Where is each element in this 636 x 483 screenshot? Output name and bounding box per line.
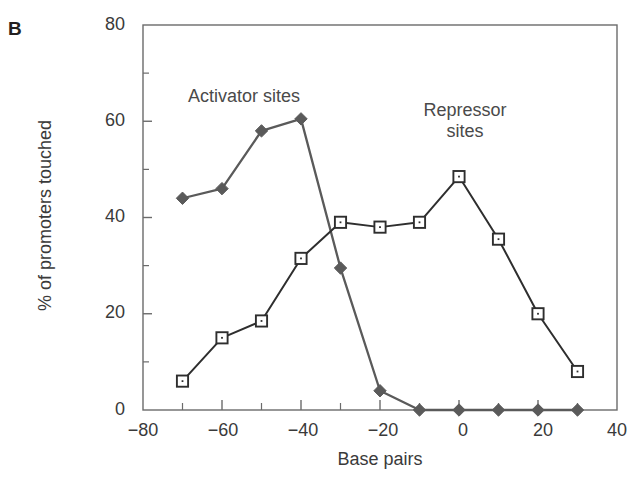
annotation-activator-sites: Activator sites <box>164 86 324 107</box>
x-axis-title: Base pairs <box>143 449 617 470</box>
x-tick-label-minus40: −40 <box>273 420 333 441</box>
annotation-repressor-sites: Repressor sites <box>405 100 525 142</box>
y-tick-label-20: 20 <box>75 302 125 323</box>
data-point-marker <box>453 404 465 416</box>
data-point-center-dot <box>340 221 342 223</box>
data-point-center-dot <box>577 371 579 373</box>
plot-frame <box>143 25 617 410</box>
series-line <box>183 177 578 382</box>
x-tick-label-minus60: −60 <box>193 420 253 441</box>
x-tick-marks <box>183 400 578 410</box>
x-tick-label-0: 0 <box>433 420 493 441</box>
x-tick-label-40: 40 <box>587 420 636 441</box>
data-point-marker <box>334 262 346 274</box>
data-point-center-dot <box>498 238 500 240</box>
series-activator-sites <box>176 113 583 417</box>
y-tick-marks <box>143 73 152 362</box>
y-tick-label-40: 40 <box>75 206 125 227</box>
figure-panel-b: B % of promoters touched Base pairs 80 6… <box>0 0 636 483</box>
data-point-marker <box>295 113 307 125</box>
plot-axes <box>143 25 617 410</box>
y-tick-label-0: 0 <box>75 399 125 420</box>
data-point-center-dot <box>182 380 184 382</box>
data-series-group <box>176 113 583 417</box>
data-point-center-dot <box>419 221 421 223</box>
data-point-center-dot <box>379 226 381 228</box>
data-point-marker <box>374 385 386 397</box>
y-tick-label-60: 60 <box>75 110 125 131</box>
x-tick-label-minus80: −80 <box>113 420 173 441</box>
data-point-center-dot <box>458 176 460 178</box>
data-point-marker <box>532 404 544 416</box>
series-line <box>183 119 578 410</box>
x-tick-label-minus20: −20 <box>353 420 413 441</box>
data-point-center-dot <box>221 337 223 339</box>
data-point-center-dot <box>261 320 263 322</box>
x-tick-label-20: 20 <box>513 420 573 441</box>
data-point-marker <box>176 192 188 204</box>
data-point-marker <box>413 404 425 416</box>
y-tick-label-80: 80 <box>75 14 125 35</box>
data-point-marker <box>571 404 583 416</box>
data-point-center-dot <box>300 258 302 260</box>
y-axis-title: % of promoters touched <box>35 86 56 346</box>
series-repressor-sites <box>177 171 583 387</box>
data-point-center-dot <box>537 313 539 315</box>
panel-label: B <box>8 18 22 40</box>
data-point-marker <box>492 404 504 416</box>
